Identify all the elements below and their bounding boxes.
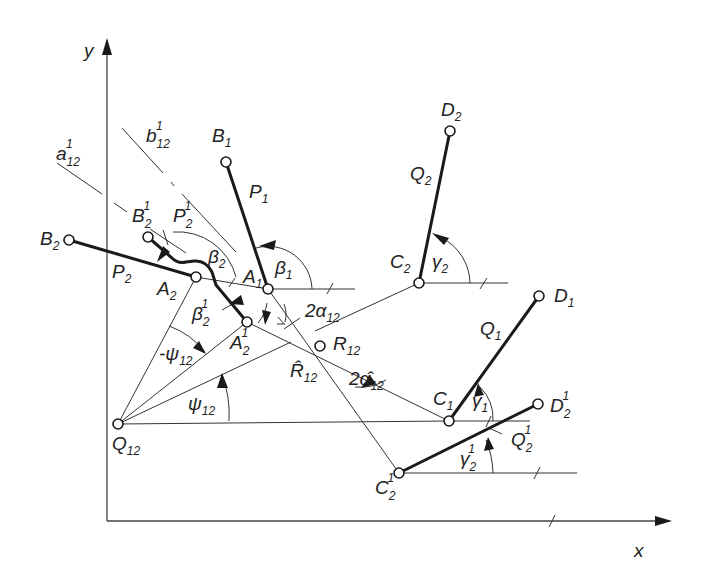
link-P2: [69, 240, 196, 277]
label-B1: B1: [212, 125, 231, 150]
label-gamma2: γ2: [432, 251, 449, 276]
joint-D2: [445, 126, 455, 136]
arrow-beta1-icon: [259, 240, 276, 250]
label-beta2p: β21: [191, 297, 210, 329]
arc-beta2: [173, 232, 236, 277]
arrow-gamma2p-icon: [484, 437, 494, 451]
joint-C2: [414, 278, 424, 288]
link-Q1: [449, 296, 539, 421]
coordinate-axes: [102, 38, 672, 527]
label-Q12: Q12: [112, 433, 140, 458]
joint-D2p: [533, 399, 543, 409]
arrow-2alpha12-icon: [262, 310, 271, 325]
label-2alpha12: 2α12: [304, 300, 340, 325]
arrow-psi12-icon: [217, 373, 228, 388]
label-A1: A1: [242, 266, 262, 291]
joint-C2p: [394, 468, 404, 478]
x-axis-arrow-icon: [655, 516, 672, 526]
label-D2p: D21: [550, 389, 571, 421]
label-beta1: β1: [274, 257, 293, 282]
label-B2: B2: [40, 228, 60, 253]
label-2alpha12-hat: 2α̂12: [348, 368, 384, 393]
label-P1: P1: [249, 181, 268, 206]
joint-B1: [221, 157, 231, 167]
labels: y x a121 b121 B1 P1 B2 B21 P21 P2 A2 A1 …: [40, 40, 645, 561]
line-Q12-C1: [118, 421, 449, 424]
label-D1: D1: [554, 285, 574, 310]
line-a12p-dash: [114, 203, 127, 212]
label-C2p: C21: [375, 471, 396, 503]
joint-A2: [191, 272, 201, 282]
joint-A1: [263, 284, 273, 294]
joint-B2: [64, 235, 74, 245]
label-R12-hat: R̂12: [290, 360, 317, 385]
perp-tick: [278, 317, 284, 324]
arc-gamma2: [442, 238, 470, 283]
label-A2: A2: [156, 278, 177, 303]
joint-D1: [534, 291, 544, 301]
label-C1: C1: [433, 388, 453, 413]
tick-P2p: [163, 230, 168, 245]
line-Q12-A2: [118, 277, 196, 424]
label-b12p: b121: [146, 119, 170, 151]
arrow-neg-psi12-icon: [193, 341, 206, 354]
links: [69, 131, 539, 473]
P2p-guide: [150, 229, 186, 253]
perp-mark-line: [284, 318, 300, 329]
label-gamma2p: γ21: [460, 442, 477, 474]
arrow-gamma2-icon: [432, 233, 449, 245]
label-R12: R12: [333, 333, 360, 358]
line-Q12-A2p: [118, 322, 247, 424]
joint-R12: [315, 341, 325, 351]
label-Q2p: Q21: [511, 423, 533, 455]
label-psi12: ψ12: [188, 393, 216, 418]
line-A2p-C1: [247, 322, 449, 421]
label-D2: D2: [441, 99, 462, 124]
label-C2: C2: [390, 251, 411, 276]
label-P2: P2: [112, 261, 132, 286]
label-a12p: a121: [56, 137, 80, 169]
kinematic-diagram: y x a121 b121 B1 P1 B2 B21 P21 P2 A2 A1 …: [0, 0, 706, 566]
joint-B2p: [143, 232, 153, 242]
label-Q2: Q2: [410, 163, 432, 188]
joints: [64, 126, 544, 478]
label-neg-psi12: -ψ12: [159, 343, 193, 368]
y-axis-arrow-icon: [102, 38, 112, 55]
joint-C1: [444, 416, 454, 426]
x-axis-label: x: [633, 540, 645, 561]
label-B2p: B21: [132, 199, 152, 231]
label-A2p: A21: [229, 326, 250, 358]
label-Q1: Q1: [480, 318, 501, 343]
line-b12p-dash: [171, 182, 174, 186]
label-P2p: P21: [173, 199, 193, 231]
joint-Q12: [113, 419, 123, 429]
y-axis-label: y: [82, 40, 95, 61]
